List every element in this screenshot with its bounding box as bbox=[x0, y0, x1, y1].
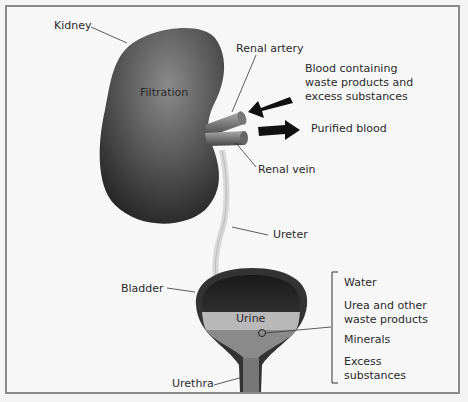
renal-vein bbox=[205, 131, 248, 146]
label-bladder: Bladder bbox=[121, 282, 164, 296]
label-ureter: Ureter bbox=[273, 228, 308, 242]
component-water: Water bbox=[344, 276, 377, 290]
urinary-system-illustration bbox=[0, 0, 468, 402]
label-renal-vein: Renal vein bbox=[258, 163, 316, 177]
label-kidney: Kidney bbox=[54, 19, 92, 33]
arrow-blood-in-icon bbox=[248, 97, 293, 118]
label-filtration: Filtration bbox=[140, 86, 188, 100]
label-urethra: Urethra bbox=[172, 377, 214, 391]
component-minerals: Minerals bbox=[344, 333, 390, 347]
components-bracket bbox=[332, 272, 338, 383]
label-urine: Urine bbox=[236, 312, 265, 326]
label-blood-in: Blood containing waste products and exce… bbox=[305, 62, 413, 104]
arrow-purified-out-icon bbox=[258, 120, 300, 140]
component-excess: Excess substances bbox=[344, 355, 406, 383]
label-renal-artery: Renal artery bbox=[236, 42, 304, 56]
component-urea: Urea and other waste products bbox=[344, 299, 428, 327]
label-purified-blood: Purified blood bbox=[311, 122, 387, 136]
